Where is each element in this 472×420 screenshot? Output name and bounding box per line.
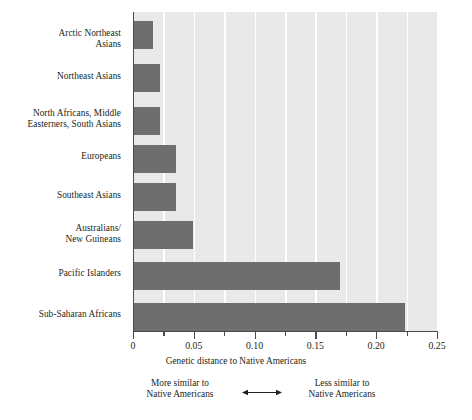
bar-australians-new-guineans xyxy=(133,221,193,249)
x-tick-0 xyxy=(133,331,134,339)
annotation-more-similar-line2: Native Americans xyxy=(147,389,214,400)
category-label-sub-saharan-africans: Sub-Saharan Africans xyxy=(0,309,121,320)
plot-area xyxy=(133,12,437,331)
category-label-line2: New Guineans xyxy=(0,234,121,245)
bar-north-africans-middle-easterners-south-asians xyxy=(133,107,160,135)
annotation-more-similar-line1: More similar to xyxy=(147,378,214,389)
category-label-line1: Europeans xyxy=(0,151,121,162)
category-label-europeans: Europeans xyxy=(0,151,121,162)
x-tick-0.025 xyxy=(163,331,164,336)
bar-pacific-islanders xyxy=(133,262,340,290)
category-label-australians-new-guineans: Australians/ New Guineans xyxy=(0,223,121,246)
x-tick-label-0: 0 xyxy=(131,340,136,351)
x-tick-0.05 xyxy=(194,331,195,339)
x-tick-0.15 xyxy=(315,331,316,339)
category-label-line1: Pacific Islanders xyxy=(0,268,121,279)
annotation-less-similar: Less similar to Native Americans xyxy=(309,378,376,401)
bar-northeast-asians xyxy=(133,64,160,92)
category-label-line2: Asians xyxy=(0,39,121,50)
category-label-north-africans-middle-easterners-south-asians: North Africans, Middle Easterners, South… xyxy=(0,108,121,131)
bar-europeans xyxy=(133,145,176,173)
category-label-line2: Easterners, South Asians xyxy=(0,119,121,130)
x-tick-0.10 xyxy=(255,331,256,339)
x-tick-0.075 xyxy=(224,331,225,336)
category-label-line1: North Africans, Middle xyxy=(0,108,121,119)
x-tick-0.20 xyxy=(376,331,377,339)
bar-sub-saharan-africans xyxy=(133,303,405,331)
double-headed-arrow-icon xyxy=(242,388,282,397)
category-label-northeast-asians: Northeast Asians xyxy=(0,71,121,82)
bar-arctic-northeast-asians xyxy=(133,21,153,49)
x-tick-0.225 xyxy=(407,331,408,336)
x-tick-label-0.10: 0.10 xyxy=(246,340,263,351)
gridline-0.20 xyxy=(376,12,378,331)
annotation-less-similar-line2: Native Americans xyxy=(309,389,376,400)
gridline-0.225 xyxy=(407,12,409,331)
category-label-line1: Southeast Asians xyxy=(0,190,121,201)
category-label-southeast-asians: Southeast Asians xyxy=(0,190,121,201)
bar-southeast-asians xyxy=(133,183,176,211)
category-label-line1: Arctic Northeast xyxy=(0,28,121,39)
category-label-pacific-islanders: Pacific Islanders xyxy=(0,268,121,279)
category-label-arctic-northeast-asians: Arctic Northeast Asians xyxy=(0,28,121,51)
category-label-line1: Australians/ xyxy=(0,223,121,234)
x-axis-title: Genetic distance to Native Americans xyxy=(0,356,472,366)
annotation-more-similar: More similar to Native Americans xyxy=(147,378,214,401)
x-tick-0.175 xyxy=(346,331,347,336)
x-tick-0.125 xyxy=(285,331,286,336)
category-axis-labels: Arctic Northeast Asians Northeast Asians… xyxy=(0,12,127,331)
x-tick-label-0.20: 0.20 xyxy=(368,340,385,351)
x-tick-label-0.15: 0.15 xyxy=(307,340,324,351)
gridline-0.175 xyxy=(346,12,348,331)
category-label-line1: Northeast Asians xyxy=(0,71,121,82)
x-tick-label-0.05: 0.05 xyxy=(185,340,202,351)
genetic-distance-bar-chart: Arctic Northeast Asians Northeast Asians… xyxy=(0,0,472,420)
x-tick-0.25 xyxy=(437,331,438,339)
annotation-less-similar-line1: Less similar to xyxy=(309,378,376,389)
category-label-line1: Sub-Saharan Africans xyxy=(0,309,121,320)
x-tick-label-0.25: 0.25 xyxy=(428,340,445,351)
y-axis-line xyxy=(133,12,134,331)
